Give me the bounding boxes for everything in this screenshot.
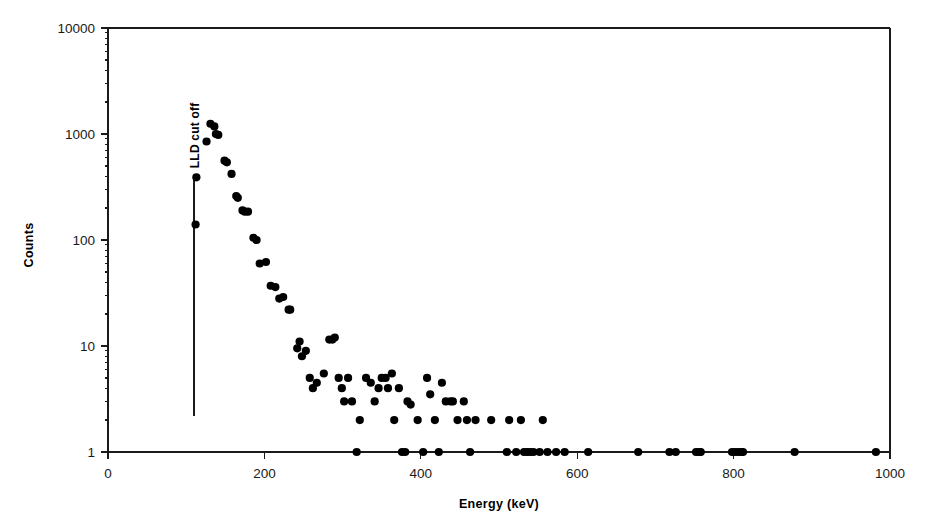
data-point (395, 384, 403, 392)
x-tick-label: 400 (410, 466, 433, 481)
data-point (561, 448, 569, 456)
data-point (449, 397, 457, 405)
data-point (390, 416, 398, 424)
y-tick-label: 100 (72, 233, 95, 248)
data-point (353, 448, 361, 456)
data-point (453, 416, 461, 424)
data-point (302, 347, 310, 355)
x-axis-title: Energy (keV) (459, 497, 539, 511)
data-point (344, 374, 352, 382)
data-point (192, 173, 200, 181)
x-tick-label: 200 (253, 466, 276, 481)
data-point (739, 448, 747, 456)
x-tick-label: 600 (566, 466, 589, 481)
data-point (539, 416, 547, 424)
data-point (367, 379, 375, 387)
data-point (295, 338, 303, 346)
y-tick-label: 1 (87, 445, 95, 460)
data-point (463, 416, 471, 424)
data-point (227, 170, 235, 178)
data-point (356, 416, 364, 424)
data-point (384, 384, 392, 392)
data-point (306, 374, 314, 382)
y-tick-label: 1000 (65, 127, 95, 142)
data-point (401, 448, 409, 456)
data-point (262, 258, 270, 266)
data-point (791, 448, 799, 456)
data-point (634, 448, 642, 456)
x-tick-label: 1000 (875, 466, 905, 481)
data-point (214, 131, 222, 139)
data-point (371, 397, 379, 405)
data-point (697, 448, 705, 456)
data-point (543, 448, 551, 456)
data-point (460, 397, 468, 405)
data-point (435, 448, 443, 456)
data-point (419, 448, 427, 456)
data-point (331, 334, 339, 342)
data-point (414, 416, 422, 424)
data-point (466, 448, 474, 456)
scatter-plot: 110100100010000 02004006008001000 LLD cu… (0, 0, 933, 532)
data-point (374, 384, 382, 392)
data-point (487, 416, 495, 424)
data-point (536, 448, 544, 456)
data-point (191, 220, 199, 228)
data-point (512, 448, 520, 456)
y-axis-title: Counts (22, 223, 36, 268)
y-tick-label: 10 (80, 339, 95, 354)
data-point (286, 306, 294, 314)
data-point (407, 401, 415, 409)
x-tick-label: 0 (104, 466, 112, 481)
data-point (426, 390, 434, 398)
data-point (210, 122, 218, 130)
data-point (340, 397, 348, 405)
x-tick-label: 800 (722, 466, 745, 481)
data-point (503, 448, 511, 456)
data-point (431, 416, 439, 424)
data-point (438, 379, 446, 387)
data-point (252, 236, 260, 244)
lld-cut-off-label: LLD cut off (188, 102, 202, 168)
data-point (313, 379, 321, 387)
data-point (223, 158, 231, 166)
data-point (872, 448, 880, 456)
data-point (202, 137, 210, 145)
data-point (279, 293, 287, 301)
data-point (672, 448, 680, 456)
y-tick-label: 10000 (57, 21, 95, 36)
data-point (584, 448, 592, 456)
data-point (505, 416, 513, 424)
chart-container: 110100100010000 02004006008001000 LLD cu… (0, 0, 933, 532)
data-point (552, 448, 560, 456)
data-point (338, 384, 346, 392)
data-point (320, 369, 328, 377)
data-point (348, 397, 356, 405)
data-point (423, 374, 431, 382)
data-point (335, 374, 343, 382)
data-point (234, 194, 242, 202)
data-point (471, 416, 479, 424)
data-point (388, 369, 396, 377)
data-point (244, 208, 252, 216)
data-point (517, 416, 525, 424)
data-point (271, 283, 279, 291)
